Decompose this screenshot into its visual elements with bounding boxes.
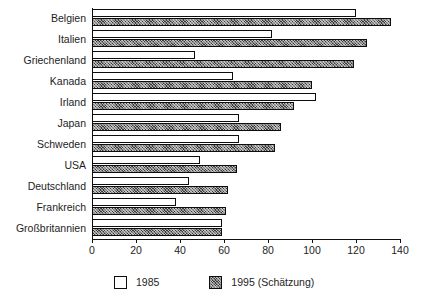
x-tick-mark [136,239,137,243]
category-row: Großbritannien [92,218,400,239]
x-tick-mark [356,239,357,243]
bar-1985 [92,72,233,80]
x-tick-label: 20 [130,244,142,257]
x-tick-label: 140 [391,244,409,257]
bar-1995 [92,144,275,152]
x-tick-label: 120 [347,244,365,257]
category-label: Kanada [50,71,86,92]
bar-1995 [92,81,312,89]
legend-item-1985: 1985 [114,276,159,289]
bar-1985 [92,135,239,143]
x-tick-mark [268,239,269,243]
bar-1985 [92,114,239,122]
category-row: Italien [92,29,400,50]
bar-1995 [92,186,228,194]
legend-label-1985: 1985 [136,276,159,289]
legend-item-1995: 1995 (Schätzung) [209,276,314,289]
category-label: Belgien [51,8,86,29]
category-row: Japan [92,113,400,134]
bar-1985 [92,198,176,206]
category-row: Frankreich [92,197,400,218]
bar-1985 [92,93,316,101]
category-label: Griechenland [24,50,86,71]
hatched-square-icon [209,276,222,289]
bar-1985 [92,30,272,38]
category-row: Irland [92,92,400,113]
bar-chart: BelgienItalienGriechenlandKanadaIrlandJa… [0,0,424,301]
bar-1995 [92,165,237,173]
bar-1985 [92,177,189,185]
category-row: Deutschland [92,176,400,197]
x-tick-label: 40 [174,244,186,257]
bar-1985 [92,9,356,17]
category-label: Italien [58,29,86,50]
x-tick-mark [224,239,225,243]
x-tick-mark [92,239,93,243]
category-row: Griechenland [92,50,400,71]
category-label: Japan [57,113,86,134]
x-axis-ticks: 020406080100120140 [92,239,400,263]
category-label: Großbritannien [16,218,86,239]
bar-1995 [92,102,294,110]
x-tick-label: 100 [303,244,321,257]
category-rows: BelgienItalienGriechenlandKanadaIrlandJa… [92,8,400,238]
plot-area: BelgienItalienGriechenlandKanadaIrlandJa… [92,8,400,238]
bar-1995 [92,18,391,26]
category-label: Deutschland [28,176,86,197]
category-label: Schweden [37,134,86,155]
bar-1985 [92,156,200,164]
bar-1995 [92,228,222,236]
x-tick-mark [312,239,313,243]
category-row: Schweden [92,134,400,155]
bar-1995 [92,60,354,68]
bar-1985 [92,51,195,59]
category-row: Belgien [92,8,400,29]
x-tick-label: 0 [89,244,95,257]
bar-1995 [92,123,281,131]
bar-1985 [92,219,222,227]
x-tick-mark [400,239,401,243]
x-tick-label: 60 [218,244,230,257]
chart-legend: 1985 1995 (Schätzung) [92,271,400,293]
x-tick-mark [180,239,181,243]
category-row: USA [92,155,400,176]
category-label: Frankreich [36,197,86,218]
bar-1995 [92,39,367,47]
x-tick-label: 80 [262,244,274,257]
legend-label-1995: 1995 (Schätzung) [231,276,314,289]
category-label: USA [64,155,86,176]
white-square-icon [114,276,127,289]
bar-1995 [92,207,226,215]
category-label: Irland [60,92,86,113]
category-row: Kanada [92,71,400,92]
